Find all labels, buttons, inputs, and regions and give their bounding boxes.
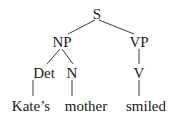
leaf-mother: mother [65,98,108,114]
leaf-smiled: smiled [126,98,166,114]
node-s: S [93,6,101,22]
edge-np-n [62,49,73,64]
node-v: V [134,65,145,81]
node-np: NP [52,34,71,50]
node-n: N [67,65,78,81]
leaf-kates: Kate’s [12,98,50,114]
node-det: Det [33,65,55,81]
edge-np-det [47,49,60,64]
syntax-tree-diagram: S NP VP Det N V Kate’s mother smiled [0,0,177,118]
node-vp: VP [129,34,148,50]
edge-s-vp [99,20,134,34]
edge-s-np [68,20,95,34]
